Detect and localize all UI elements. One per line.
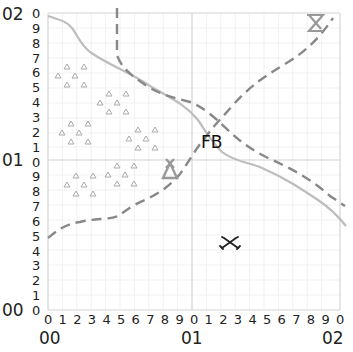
y-minor-label: 5: [32, 81, 40, 94]
x-minor-label: 8: [307, 313, 315, 326]
x-major-label-left: 00: [39, 330, 61, 347]
y-minor-label: 6: [32, 215, 40, 228]
tactical-map: FB: [0, 0, 353, 352]
y-minor-label: 9: [32, 22, 40, 35]
y-minor-label: 5: [32, 230, 40, 243]
y-major-label-top: 02: [2, 6, 24, 23]
y-minor-label: 7: [32, 52, 40, 65]
x-minor-label: 9: [175, 313, 183, 326]
y-minor-label: 4: [32, 245, 40, 258]
y-minor-label: 7: [32, 200, 40, 213]
hourglass-objective-icon[interactable]: [307, 15, 323, 31]
y-minor-label: 2: [32, 274, 40, 287]
forest-cluster-1: [55, 64, 87, 87]
x-minor-label: 5: [117, 313, 125, 326]
x-minor-label: 7: [146, 313, 154, 326]
y-minor-label: 0: [32, 156, 40, 169]
y-minor-label: 3: [32, 259, 40, 272]
x-minor-label: 3: [234, 313, 242, 326]
crossed-swords-icon[interactable]: [220, 237, 240, 249]
y-minor-label: 9: [32, 170, 40, 183]
x-minor-label: 8: [161, 313, 169, 326]
y-minor-label: 6: [32, 66, 40, 79]
x-minor-label: 4: [102, 313, 110, 326]
x-minor-label: 0: [336, 313, 344, 326]
y-minor-label: 1: [32, 289, 40, 302]
x-minor-label: 9: [321, 313, 329, 326]
x-minor-label: 4: [248, 313, 256, 326]
y-minor-label: 0: [32, 304, 40, 317]
x-major-label-mid: 01: [181, 330, 203, 347]
y-minor-label: 8: [32, 37, 40, 50]
x-minor-label: 2: [219, 313, 227, 326]
x-minor-label: 3: [88, 313, 96, 326]
y-major-label-bottom: 00: [2, 302, 24, 319]
y-minor-label: 4: [32, 96, 40, 109]
x-minor-label: 6: [278, 313, 286, 326]
x-minor-label: 7: [292, 313, 300, 326]
y-minor-label: 8: [32, 185, 40, 198]
boundary-line-solid: [48, 16, 346, 226]
x-minor-label: 1: [59, 313, 67, 326]
x-minor-label: 2: [73, 313, 81, 326]
fb-label: FB: [201, 132, 222, 152]
x-minor-label: 0: [190, 313, 198, 326]
x-minor-label: 6: [132, 313, 140, 326]
x-minor-label: 1: [205, 313, 213, 326]
y-minor-label: 0: [32, 7, 40, 20]
minor-grid: [48, 13, 340, 310]
x-minor-label: 0: [44, 313, 52, 326]
route-dashed-east: [117, 8, 345, 206]
x-major-label-right: 02: [322, 330, 344, 347]
y-major-label-mid: 01: [2, 152, 24, 169]
x-minor-label: 5: [263, 313, 271, 326]
y-minor-label: 2: [32, 126, 40, 139]
y-minor-label: 3: [32, 111, 40, 124]
y-minor-label: 1: [32, 141, 40, 154]
